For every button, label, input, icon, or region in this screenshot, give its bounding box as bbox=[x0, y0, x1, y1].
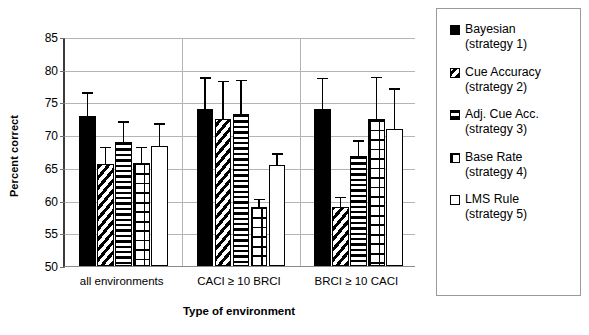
y-axis-tickmark bbox=[60, 38, 65, 39]
y-axis-tickmark bbox=[60, 103, 65, 104]
legend-swatch-icon bbox=[450, 25, 460, 35]
gridline bbox=[65, 38, 415, 39]
legend-sublabel: (strategy 2) bbox=[450, 80, 576, 95]
error-bar-cap bbox=[82, 92, 93, 94]
legend-sublabel: (strategy 5) bbox=[450, 207, 576, 222]
bar bbox=[314, 109, 331, 266]
plot-area bbox=[63, 38, 415, 267]
y-axis-tickmark bbox=[60, 202, 65, 203]
legend-item: Adj. Cue Acc.(strategy 3) bbox=[450, 107, 576, 137]
bar bbox=[197, 109, 214, 266]
error-bar-cap bbox=[272, 153, 283, 155]
legend-item: LMS Rule(strategy 5) bbox=[450, 192, 576, 222]
error-bar-cap bbox=[335, 197, 346, 199]
legend-item: Bayesian(strategy 1) bbox=[450, 22, 576, 52]
error-bar-cap bbox=[371, 77, 382, 79]
x-axis-title: Type of environment bbox=[63, 305, 415, 317]
gridline bbox=[65, 71, 415, 72]
error-bar-stem bbox=[87, 92, 89, 117]
legend-label: LMS Rule bbox=[465, 192, 519, 207]
y-axis-tick-label: 70 bbox=[32, 131, 58, 141]
legend-item: Cue Accuracy(strategy 2) bbox=[450, 65, 576, 95]
legend-sublabel: (strategy 3) bbox=[450, 122, 576, 137]
error-bar-cap bbox=[236, 80, 247, 82]
error-bar-cap bbox=[136, 147, 147, 149]
error-bar-cap bbox=[200, 77, 211, 79]
error-bar-stem bbox=[222, 81, 224, 120]
plot-wrapper: Percent correct 5055606570758085 all env… bbox=[0, 0, 420, 335]
y-axis-tick-label: 55 bbox=[32, 229, 58, 239]
group-separator bbox=[182, 38, 183, 266]
group-separator bbox=[300, 38, 301, 266]
bar bbox=[151, 146, 168, 266]
bar bbox=[269, 165, 286, 266]
error-bar-cap bbox=[254, 199, 265, 201]
bar-chart-figure: Percent correct 5055606570758085 all env… bbox=[0, 0, 589, 335]
bar bbox=[350, 156, 367, 266]
y-axis-tickmark bbox=[60, 267, 65, 268]
error-bar-cap bbox=[118, 121, 129, 123]
legend-item: Base Rate(strategy 4) bbox=[450, 150, 576, 180]
x-axis-tick-label: all environments bbox=[63, 275, 180, 287]
bar bbox=[97, 164, 114, 266]
y-axis-tickmark bbox=[60, 234, 65, 235]
bar bbox=[233, 114, 250, 266]
y-axis-tick-label: 65 bbox=[32, 164, 58, 174]
error-bar-cap bbox=[317, 78, 328, 80]
y-axis-tickmark bbox=[60, 71, 65, 72]
legend-box: Bayesian(strategy 1)Cue Accuracy(strateg… bbox=[436, 8, 581, 296]
legend-label: Base Rate bbox=[465, 150, 522, 165]
legend-swatch-icon bbox=[450, 195, 460, 205]
error-bar-stem bbox=[376, 77, 378, 121]
legend-items: Bayesian(strategy 1)Cue Accuracy(strateg… bbox=[450, 22, 576, 235]
y-axis-tickmark bbox=[60, 136, 65, 137]
bar bbox=[332, 207, 349, 266]
legend-sublabel: (strategy 1) bbox=[450, 37, 576, 52]
y-axis-title: Percent correct bbox=[8, 86, 20, 226]
y-axis-tick-label: 75 bbox=[32, 98, 58, 108]
error-bar-stem bbox=[204, 77, 206, 110]
legend-label: Bayesian bbox=[465, 22, 516, 37]
error-bar-stem bbox=[340, 197, 342, 208]
bar bbox=[133, 163, 150, 266]
legend-sublabel: (strategy 4) bbox=[450, 165, 576, 180]
error-bar-cap bbox=[100, 147, 111, 149]
error-bar-cap bbox=[353, 140, 364, 142]
error-bar-stem bbox=[123, 121, 125, 143]
legend-swatch-icon bbox=[450, 68, 460, 78]
error-bar-stem bbox=[394, 88, 396, 129]
bar bbox=[251, 207, 268, 266]
x-axis-tick-label: BRCI ≥ 10 CACI bbox=[298, 275, 415, 287]
error-bar-stem bbox=[105, 147, 107, 165]
y-axis-tickmark bbox=[60, 169, 65, 170]
error-bar-stem bbox=[159, 123, 161, 147]
legend-swatch-icon bbox=[450, 110, 460, 120]
legend-label: Cue Accuracy bbox=[465, 65, 541, 80]
error-bar-cap bbox=[389, 88, 400, 90]
error-bar-stem bbox=[276, 153, 278, 165]
error-bar-stem bbox=[141, 147, 143, 164]
error-bar-cap bbox=[218, 81, 229, 83]
bar bbox=[386, 129, 403, 266]
legend-swatch-icon bbox=[450, 153, 460, 163]
y-axis-tick-label: 60 bbox=[32, 197, 58, 207]
bar bbox=[215, 119, 232, 266]
y-axis-tick-label: 80 bbox=[32, 66, 58, 76]
bar bbox=[79, 116, 96, 266]
error-bar-stem bbox=[322, 78, 324, 110]
bar bbox=[115, 142, 132, 266]
y-axis-tick-label: 85 bbox=[32, 33, 58, 43]
error-bar-stem bbox=[358, 140, 360, 157]
x-axis-tick-label: CACI ≥ 10 BRCI bbox=[180, 275, 297, 287]
y-axis-tick-labels: 5055606570758085 bbox=[30, 0, 58, 335]
bar bbox=[368, 119, 385, 266]
error-bar-stem bbox=[240, 80, 242, 115]
y-axis-tick-label: 50 bbox=[32, 262, 58, 272]
legend-label: Adj. Cue Acc. bbox=[465, 107, 539, 122]
error-bar-cap bbox=[154, 123, 165, 125]
